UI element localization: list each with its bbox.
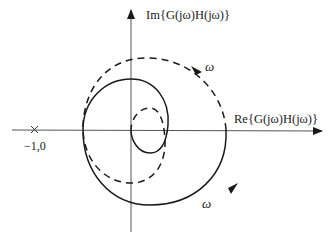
imag-axis-label: Im{G(jω)H(jω)} bbox=[146, 8, 230, 23]
critical-point-marker bbox=[31, 126, 38, 133]
dashed-omega-label: ω bbox=[205, 59, 214, 75]
solid-curve-arrow-icon bbox=[228, 183, 238, 194]
real-axis-label: Re{G(jω)H(jω)} bbox=[234, 112, 318, 127]
critical-point-label: −1,0 bbox=[24, 139, 46, 154]
dashed-nyquist-curve bbox=[83, 58, 226, 183]
solid-nyquist-curve bbox=[83, 79, 226, 205]
dashed-curve-arrow-icon bbox=[191, 66, 202, 75]
solid-omega-label: ω bbox=[202, 196, 211, 212]
